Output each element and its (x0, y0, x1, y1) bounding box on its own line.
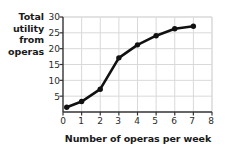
x-tick-label-5: 5 (148, 116, 162, 126)
gridlines (63, 17, 212, 112)
data-point-marker (172, 26, 177, 31)
data-point-marker (79, 99, 84, 104)
chart-container: Total utility from operas Number of oper… (0, 0, 230, 159)
y-tick-label-15: 15 (44, 60, 60, 70)
y-axis-title-line-4: operas (2, 46, 44, 58)
y-tick-label-20: 20 (44, 44, 60, 54)
y-axis-title-line-3: from (2, 34, 44, 46)
axis-lines (63, 17, 212, 112)
data-point-markers (64, 23, 196, 109)
y-tick-label-30: 30 (44, 12, 60, 22)
x-axis-title: Number of operas per week (63, 133, 213, 144)
data-point-marker (191, 23, 196, 28)
y-axis-title-line-2: utility (2, 23, 44, 35)
y-tick-label-25: 25 (44, 28, 60, 38)
x-tick-label-7: 7 (185, 116, 199, 126)
x-tick-label-1: 1 (74, 116, 88, 126)
x-tick-label-4: 4 (130, 116, 144, 126)
y-axis-title-line-1: Total (2, 11, 44, 23)
y-tick-label-10: 10 (44, 76, 60, 86)
y-axis-title: Total utility from operas (2, 11, 44, 57)
data-point-marker (135, 42, 140, 47)
data-series-line (67, 26, 194, 107)
series-polyline (67, 26, 194, 107)
y-tick-label-5: 5 (44, 92, 60, 102)
x-tick-label-0: 0 (56, 116, 70, 126)
data-point-marker (153, 33, 158, 38)
x-tick-label-8: 8 (204, 116, 218, 126)
x-tick-label-6: 6 (167, 116, 181, 126)
data-point-marker (98, 87, 103, 92)
x-tick-label-3: 3 (111, 116, 125, 126)
x-tick-label-2: 2 (93, 116, 107, 126)
data-point-marker (116, 55, 121, 60)
data-point-marker (64, 105, 69, 110)
axis-ticks (60, 17, 213, 116)
